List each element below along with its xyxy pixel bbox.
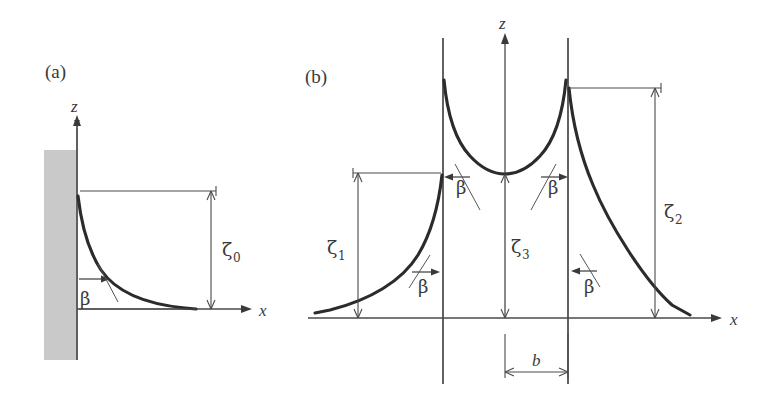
panel-b-beta-outer-left-label: β — [418, 276, 428, 297]
panel-a-height-label: ζ — [222, 238, 232, 260]
panel-a-beta-label: β — [80, 288, 90, 309]
z-axis-arrowhead-b — [501, 33, 509, 44]
panel-a-label: (a) — [45, 61, 66, 83]
panel-a-x-axis-label: x — [258, 301, 267, 320]
panel-b-beta-inner-right-label: β — [548, 177, 558, 198]
panel-b-group: (b) z x ζ 1 ζ 2 ζ 3 b β β β β — [305, 14, 738, 384]
panel-b-zeta1-subscript: 1 — [338, 249, 346, 263]
panel-b-beta-outer-right-label: β — [584, 276, 594, 297]
panel-a-group: (a) z x β ζ 0 — [44, 61, 267, 360]
x-axis-arrowhead-a — [241, 305, 252, 313]
beta-outer-left-arrowhead — [431, 269, 440, 276]
panel-b-x-axis-label: x — [729, 310, 738, 329]
beta-outer-right-arrowhead — [571, 268, 580, 275]
panel-a-height-subscript: 0 — [233, 251, 241, 265]
panel-b-label: (b) — [305, 66, 327, 88]
panel-a-z-axis-label: z — [70, 97, 78, 116]
panel-b-zeta3-label: ζ — [511, 235, 521, 257]
meniscus-curve-a — [78, 196, 196, 309]
panel-b-zeta1-label: ζ — [327, 236, 337, 258]
panel-b-z-axis-label: z — [498, 14, 506, 33]
panel-b-zeta3-subscript: 3 — [522, 248, 530, 262]
wall-block — [44, 150, 76, 360]
panel-b-gap-label: b — [532, 351, 541, 370]
beta-inner-left-arrowhead — [444, 174, 453, 181]
panel-b-zeta2-label: ζ — [664, 200, 674, 222]
x-axis-arrowhead-b — [711, 314, 722, 322]
beta-inner-right-arrowhead — [559, 174, 568, 181]
panel-b-beta-inner-left-label: β — [456, 177, 466, 198]
capillary-rise-figure: (a) z x β ζ 0 — [0, 0, 774, 402]
panel-b-zeta2-subscript: 2 — [675, 213, 683, 227]
figure-canvas: (a) z x β ζ 0 — [0, 0, 774, 402]
z-axis-arrowhead-a — [73, 115, 81, 126]
